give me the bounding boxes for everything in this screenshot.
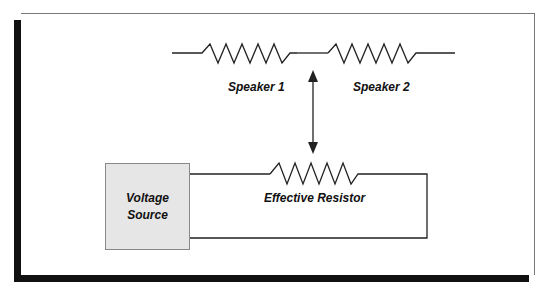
effective-resistor-icon: [270, 163, 363, 184]
speaker-2-resistor-icon: [328, 44, 455, 63]
circuit-wires: [189, 174, 427, 238]
voltage-source-label-line2: Source: [127, 207, 168, 224]
speaker-1-label: Speaker 1: [228, 80, 285, 94]
voltage-source-box: Voltage Source: [105, 163, 190, 250]
voltage-source-label-line1: Voltage: [126, 190, 169, 207]
speaker-2-label: Speaker 2: [353, 80, 410, 94]
circuit-diagram: Speaker 1 Speaker 2 Effective Resistor: [0, 0, 543, 289]
effective-resistor-label: Effective Resistor: [264, 191, 366, 205]
speaker-1-resistor-icon: [172, 44, 297, 63]
double-arrow-icon: [308, 70, 318, 154]
